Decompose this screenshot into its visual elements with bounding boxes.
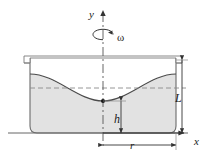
radius-r-label: r [130,140,134,151]
y-axis-arrowhead [100,10,105,16]
x-axis-label: x [194,136,199,147]
physics-diagram-figure: y ω L h r x [0,0,209,161]
depth-L-label: L [175,92,182,104]
angular-velocity-label: ω [117,32,124,43]
height-h-label: h [114,113,120,125]
y-axis-label: y [89,9,94,20]
diagram-canvas [0,0,209,161]
